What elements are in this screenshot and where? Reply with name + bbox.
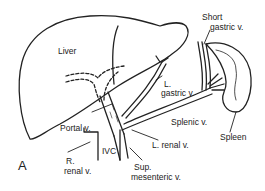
portal-venous-anatomy-diagram: Liver Short gastric v. L. gastric v. Spl… <box>0 0 265 191</box>
label-splenic: Splenic v. <box>171 118 207 127</box>
leader-portal <box>92 104 112 112</box>
label-short-gastric-1: Short <box>202 13 222 22</box>
biliary-dashed-2 <box>66 79 100 102</box>
label-l-renal: L. renal v. <box>152 141 189 150</box>
label-short-gastric-2: gastric v. <box>210 23 243 32</box>
panel-letter: A <box>18 161 27 170</box>
label-spleen: Spleen <box>220 133 246 142</box>
label-portal: Portal v. <box>60 124 91 133</box>
liver-outline <box>19 16 188 139</box>
biliary-dashed-1 <box>66 66 124 78</box>
label-r-renal-1: R. <box>66 157 75 166</box>
leader-r-renal <box>68 142 90 152</box>
label-sup-mes-2: mesenteric v. <box>131 173 181 182</box>
biliary-dashed-3 <box>104 72 118 100</box>
label-r-renal-2: renal v. <box>64 167 91 176</box>
label-sup-mes-1: Sup. <box>134 163 152 172</box>
label-ivc: IVC <box>102 147 116 156</box>
label-liver: Liver <box>58 47 76 56</box>
leader-short-gastric <box>204 30 210 44</box>
leader-spleen <box>230 112 236 132</box>
label-l-gastric-2: gastric v. <box>161 89 194 98</box>
spleen-outline <box>206 43 251 112</box>
leader-l-renal <box>132 130 158 140</box>
leader-sup-mes <box>130 148 142 160</box>
